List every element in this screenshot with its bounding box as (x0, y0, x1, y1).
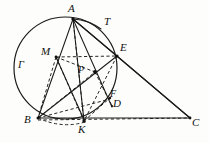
segment-M-E (56, 56, 117, 57)
label-K: K (78, 124, 85, 135)
label-E: E (120, 42, 127, 53)
point-B (37, 117, 40, 120)
label-B: B (24, 114, 31, 125)
point-M (55, 56, 58, 59)
geometry-figure: A T E M Γ P F D B K C (0, 0, 209, 143)
segment-E-C (117, 56, 190, 118)
label-P: P (78, 65, 84, 75)
label-gamma: Γ (18, 60, 24, 71)
label-D: D (113, 98, 121, 109)
segment-B-F (38, 99, 110, 118)
point-C (189, 117, 192, 120)
segment-K-F (84, 97, 111, 121)
label-C: C (192, 117, 199, 128)
point-E (115, 54, 118, 57)
segment-A-D (73, 19, 112, 107)
segment-A-B (38, 19, 73, 118)
point-A (71, 17, 74, 20)
label-A: A (68, 3, 75, 14)
label-T: T (104, 16, 110, 27)
label-M: M (41, 46, 50, 57)
point-P (93, 70, 97, 74)
